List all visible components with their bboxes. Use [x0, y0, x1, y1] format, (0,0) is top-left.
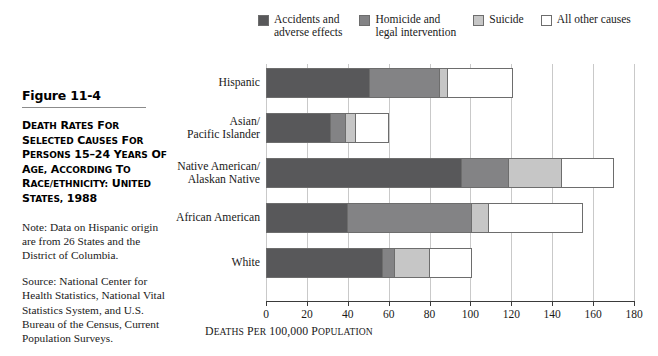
x-axis-tick-label: 40 — [342, 308, 354, 320]
x-axis-tick-label: 140 — [544, 308, 561, 320]
bar-segment[interactable] — [562, 158, 613, 188]
x-axis-tick — [634, 301, 635, 306]
bar-segment[interactable] — [266, 248, 383, 278]
bar-segment[interactable] — [266, 158, 462, 188]
gridline — [634, 64, 635, 301]
legend-label: All other causes — [557, 13, 631, 26]
x-axis-tick — [511, 301, 512, 306]
x-axis-tick-label: 180 — [625, 308, 642, 320]
x-axis-tick-label: 60 — [383, 308, 395, 320]
bar-segment[interactable] — [472, 203, 488, 233]
bar-segment[interactable] — [430, 248, 473, 278]
x-axis-tick — [389, 301, 390, 306]
x-axis-tick — [430, 301, 431, 306]
legend-label: Suicide — [489, 13, 524, 26]
x-axis-tick-label: 120 — [503, 308, 520, 320]
bar-segment[interactable] — [440, 68, 448, 98]
x-axis-tick-label: 20 — [301, 308, 313, 320]
category-label: Hispanic — [110, 76, 260, 89]
category-axis-labels: HispanicAsian/ Pacific IslanderNative Am… — [108, 64, 260, 301]
category-label: African American — [110, 211, 260, 224]
bar-segment[interactable] — [331, 113, 345, 143]
legend-swatch-icon — [359, 15, 370, 26]
x-axis-tick — [470, 301, 471, 306]
x-axis-tick-label: 80 — [424, 308, 436, 320]
bar-segment[interactable] — [448, 68, 513, 98]
legend-label: Homicide and legal intervention — [375, 13, 456, 39]
bar-segment[interactable] — [356, 113, 389, 143]
legend-item[interactable]: Accidents and adverse effects — [258, 13, 342, 39]
bar-segment[interactable] — [395, 248, 430, 278]
bar-segment[interactable] — [489, 203, 583, 233]
bar-segment[interactable] — [348, 203, 473, 233]
bar-segment[interactable] — [509, 158, 562, 188]
legend-label: Accidents and adverse effects — [274, 13, 342, 39]
bar-segment[interactable] — [370, 68, 440, 98]
bar-segment[interactable] — [266, 113, 331, 143]
legend-item[interactable]: All other causes — [541, 13, 631, 26]
chart-legend: Accidents and adverse effectsHomicide an… — [258, 13, 648, 39]
legend-item[interactable]: Suicide — [473, 13, 524, 26]
legend-item[interactable]: Homicide and legal intervention — [359, 13, 456, 39]
x-axis-tick — [266, 301, 267, 306]
x-axis-tick-label: 0 — [263, 308, 269, 320]
x-axis-tick — [307, 301, 308, 306]
chart-plot-area — [266, 64, 634, 301]
category-label: Asian/ Pacific Islander — [110, 115, 260, 142]
x-axis-tick — [593, 301, 594, 306]
bar-segment[interactable] — [346, 113, 356, 143]
x-axis-tick-label: 160 — [584, 308, 601, 320]
legend-swatch-icon — [258, 15, 269, 26]
bar-segment[interactable] — [462, 158, 509, 188]
legend-swatch-icon — [541, 15, 552, 26]
x-axis-tick — [348, 301, 349, 306]
x-axis-tick-label: 100 — [462, 308, 479, 320]
x-axis-title: DEATHS PER 100,000 POPULATION — [205, 324, 373, 339]
category-label: Native American/ Alaskan Native — [110, 160, 260, 187]
x-axis-tick — [552, 301, 553, 306]
bar-segment[interactable] — [266, 203, 348, 233]
bar-segment[interactable] — [383, 248, 395, 278]
category-label: White — [110, 256, 260, 269]
legend-swatch-icon — [473, 15, 484, 26]
bar-segment[interactable] — [266, 68, 370, 98]
